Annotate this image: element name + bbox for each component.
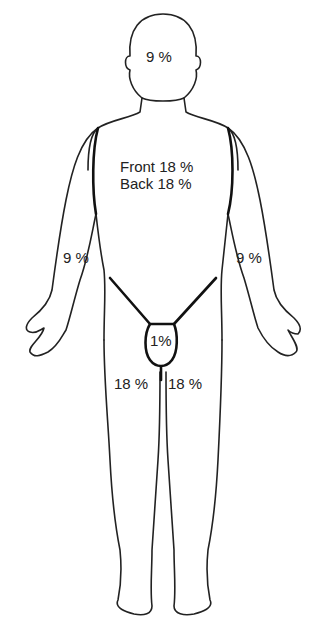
trunk-front-percent-label: Front 18 % [120,158,193,175]
left-arm-percent-label: 9 % [236,249,262,266]
right-shoulder-line [228,128,233,214]
right-arm-percent-label: 9 % [63,249,89,266]
trunk-back-percent-label: Back 18 % [120,175,192,192]
left-groin-line [110,278,150,324]
left-shoulder-line [93,128,98,214]
right-groin-line [174,278,216,324]
head-percent-label: 9 % [146,48,172,65]
right-leg-percent-label: 18 % [114,375,148,392]
perineum-percent-label: 1% [150,332,172,349]
body-outline [0,0,327,640]
left-leg-percent-label: 18 % [168,375,202,392]
